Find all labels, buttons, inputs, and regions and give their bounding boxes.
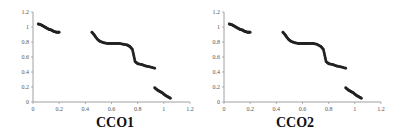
y-tick-label: 0.6: [22, 54, 30, 60]
x-tick-label: 0.4: [82, 106, 90, 112]
y-tick-label: 0.4: [22, 69, 30, 75]
x-tick-label: 0.8: [325, 106, 333, 112]
y-tick-label: 0.6: [213, 54, 221, 60]
x-tick-label: 0: [223, 106, 226, 112]
x-tick-label: 0: [32, 106, 35, 112]
x-tick-label: 1.2: [186, 106, 194, 112]
x-tick-label: 1.2: [377, 106, 385, 112]
y-tick-label: 1.2: [22, 9, 30, 15]
chart-panel-cco1: 00.20.40.60.811.200.20.40.60.811.2 CCO1: [0, 0, 200, 135]
x-tick-label: 0.6: [299, 106, 307, 112]
y-tick-label: 0.8: [213, 39, 221, 45]
data-point: [58, 31, 61, 34]
chart-panel-cco2: 00.20.40.60.811.200.20.40.60.811.2 CCO2: [200, 0, 403, 135]
y-tick-label: 0.2: [22, 84, 30, 90]
data-point: [153, 67, 156, 70]
x-tick-label: 1: [162, 106, 165, 112]
x-tick-label: 0.8: [134, 106, 142, 112]
x-tick-label: 1: [353, 106, 356, 112]
y-tick-label: 0.2: [213, 84, 221, 90]
data-point: [344, 67, 347, 70]
y-tick-label: 0: [217, 99, 220, 105]
x-tick-label: 0.6: [108, 106, 116, 112]
data-point: [360, 97, 363, 100]
y-tick-label: 0.4: [213, 69, 221, 75]
scatter-plot-cco1: 00.20.40.60.811.200.20.40.60.811.2: [0, 0, 200, 120]
x-tick-label: 0.2: [55, 106, 63, 112]
y-tick-label: 1.2: [213, 9, 221, 15]
data-point: [249, 31, 252, 34]
y-tick-label: 1: [217, 24, 220, 30]
chart-caption-cco2: CCO2: [265, 115, 325, 131]
y-tick-label: 0.8: [22, 39, 30, 45]
chart-caption-cco1: CCO1: [85, 115, 145, 131]
y-tick-label: 1: [26, 24, 29, 30]
y-tick-label: 0: [26, 99, 29, 105]
x-tick-label: 0.2: [246, 106, 254, 112]
scatter-plot-cco2: 00.20.40.60.811.200.20.40.60.811.2: [200, 0, 403, 120]
data-point: [169, 97, 172, 100]
x-tick-label: 0.4: [273, 106, 281, 112]
